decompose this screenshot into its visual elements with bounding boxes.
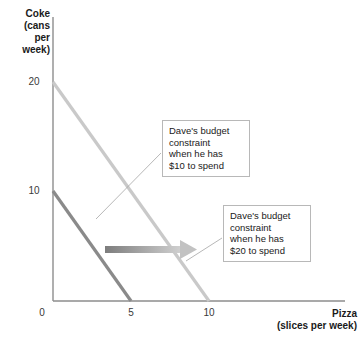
x-axis-title-line1: Pizza xyxy=(332,308,357,319)
y-axis-title-line2: (cans xyxy=(24,20,50,31)
x-tick-label-0: 0 xyxy=(30,307,54,318)
x-axis-title-line2: (slices per week) xyxy=(277,320,357,331)
y-axis-title-line1: Coke xyxy=(26,8,50,19)
callout-budget-20: Dave's budget constraint when he has $20… xyxy=(223,205,311,262)
chart-canvas: Coke(cansperweek) Pizza(slices per week)… xyxy=(0,0,359,350)
y-tick-label-20: 20 xyxy=(22,76,46,87)
x-tick-label-10: 10 xyxy=(197,307,221,318)
budget-line-20 xyxy=(53,82,209,301)
y-axis-title: Coke(cansperweek) xyxy=(2,8,50,56)
y-tick-label-10: 10 xyxy=(22,185,46,196)
x-tick-label-5: 5 xyxy=(119,307,143,318)
leader-line-10 xyxy=(96,153,161,219)
shift-arrow-icon xyxy=(105,240,197,259)
x-axis-title: Pizza(slices per week) xyxy=(243,308,357,332)
callout-budget-10: Dave's budget constraint when he has $10… xyxy=(162,120,250,177)
y-axis-title-line4: week) xyxy=(22,44,50,55)
y-axis-title-line3: per xyxy=(34,32,50,43)
